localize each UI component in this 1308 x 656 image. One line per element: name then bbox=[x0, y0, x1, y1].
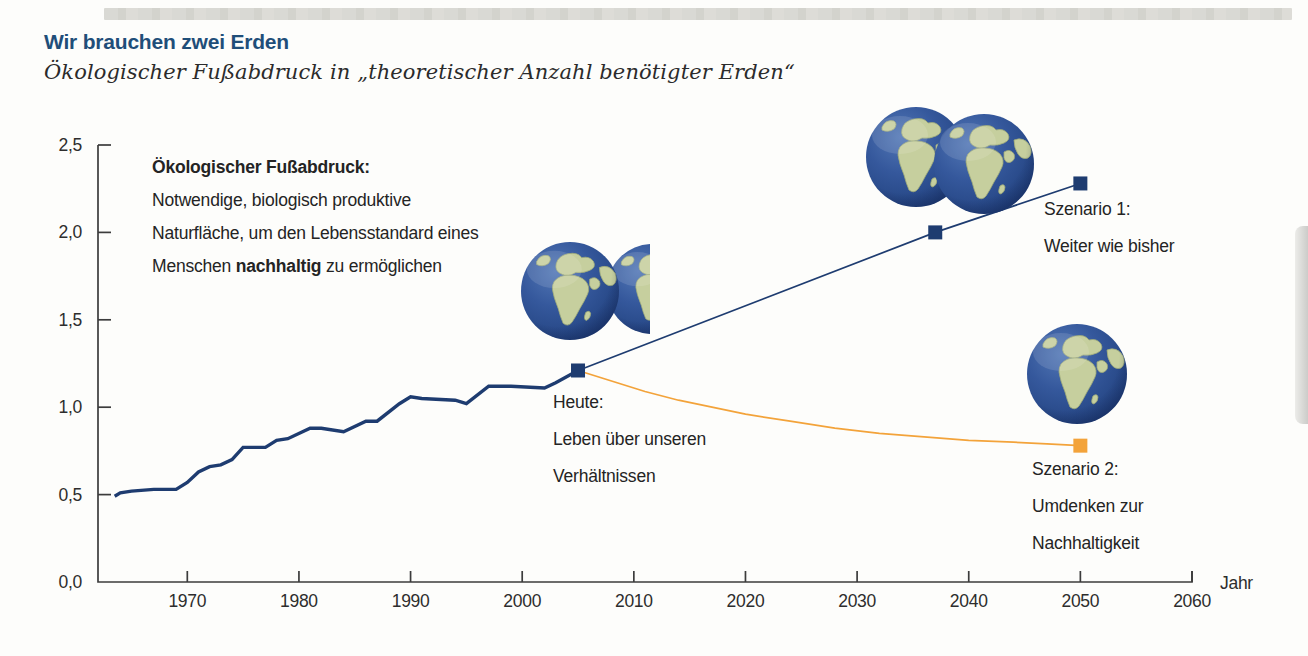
x-tick-label: 2000 bbox=[503, 591, 541, 611]
x-tick-label: 2020 bbox=[727, 591, 765, 611]
earth-globes-layer bbox=[521, 107, 1127, 424]
series-line bbox=[115, 371, 578, 497]
y-tick-label: 1,0 bbox=[59, 397, 83, 417]
series-line bbox=[578, 184, 1080, 371]
x-tick-label: 2040 bbox=[950, 591, 988, 611]
x-tick-label: 2030 bbox=[838, 591, 876, 611]
y-tick-label: 0,5 bbox=[59, 485, 82, 505]
definition-line: Naturfläche, um den Lebensstandard eines bbox=[152, 217, 479, 250]
data-point-marker bbox=[571, 363, 585, 377]
earth-globe-icon bbox=[934, 114, 1034, 214]
x-tick-label: 2060 bbox=[1173, 591, 1211, 611]
earth-globe-icon bbox=[521, 242, 619, 340]
earth-globe-icon bbox=[607, 244, 697, 334]
y-tick-label: 2,5 bbox=[59, 135, 82, 155]
page: Wir brauchen zwei Erden Ökologischer Fuß… bbox=[0, 0, 1308, 656]
x-tick-label: 2010 bbox=[615, 591, 653, 611]
data-point-marker bbox=[1073, 176, 1087, 190]
earth-globe-icon bbox=[1027, 324, 1127, 424]
data-point-marker bbox=[928, 225, 942, 239]
y-tick-label: 2,0 bbox=[59, 222, 83, 242]
definition-line: Notwendige, biologisch produktive bbox=[152, 184, 479, 217]
x-tick-label: 1970 bbox=[168, 591, 206, 611]
annotation-heute: Heute: Leben über unseren Verhältnissen bbox=[553, 384, 706, 495]
annotation-szenario2: Szenario 2: Umdenken zur Nachhaltigkeit bbox=[1032, 451, 1143, 562]
y-tick-label: 0,0 bbox=[59, 572, 83, 592]
x-tick-label: 2050 bbox=[1062, 591, 1100, 611]
x-tick-label: 1990 bbox=[392, 591, 430, 611]
y-tick-label: 1,5 bbox=[59, 310, 82, 330]
x-axis-label: Jahr bbox=[1220, 573, 1253, 593]
x-tick-label: 1980 bbox=[280, 591, 318, 611]
annotation-szenario1: Szenario 1: Weiter wie bisher bbox=[1044, 191, 1175, 265]
definition-line: Menschen nachhaltig zu ermöglichen bbox=[152, 250, 479, 283]
definition-heading: Ökologischer Fußabdruck: bbox=[152, 151, 479, 184]
footprint-definition: Ökologischer Fußabdruck: Notwendige, bio… bbox=[152, 151, 479, 283]
